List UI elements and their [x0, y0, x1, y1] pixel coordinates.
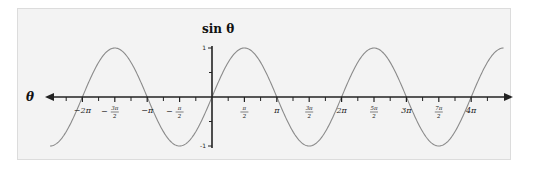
x-tick-label: 7π2	[435, 105, 443, 119]
x-tick-label: π2	[240, 105, 248, 119]
svg-text:π: π	[242, 105, 247, 111]
svg-text:−: −	[101, 107, 108, 116]
svg-text:2: 2	[112, 113, 117, 119]
axes	[45, 46, 513, 148]
y-tick-label: 1	[202, 44, 206, 51]
svg-text:2: 2	[436, 113, 441, 119]
svg-text:2: 2	[371, 113, 376, 119]
x-axis-title: θ	[26, 90, 34, 104]
svg-text:2: 2	[306, 113, 311, 119]
y-axis-title: sin θ	[202, 22, 234, 36]
x-tick-label: 3π2	[305, 105, 313, 119]
x-tick-label: −3π2	[101, 105, 119, 119]
x-tick-label: 4π	[465, 106, 477, 115]
x-tick-label: 2π	[335, 106, 347, 115]
arrow-right-icon	[504, 93, 513, 101]
x-tick-label: 3π	[401, 106, 412, 115]
y-tick-label: -1	[200, 142, 206, 149]
x-tick-label: 5π2	[370, 105, 378, 119]
svg-text:3π: 3π	[306, 105, 313, 111]
sine-chart: 1-1−2π−3π2−π−π2π2π3π22π5π23π7π24π sin θ …	[0, 0, 542, 175]
svg-text:5π: 5π	[370, 105, 377, 111]
x-tick-label: −2π	[74, 106, 92, 115]
x-tick-label: −π2	[166, 105, 184, 119]
x-tick-label: π	[273, 106, 280, 115]
svg-text:2: 2	[177, 113, 182, 119]
svg-text:−: −	[166, 107, 173, 116]
arrow-left-icon	[45, 93, 54, 101]
svg-text:3π: 3π	[111, 105, 118, 111]
svg-text:π: π	[177, 105, 182, 111]
x-tick-label: −π	[141, 106, 154, 115]
svg-text:2: 2	[242, 113, 247, 119]
svg-text:7π: 7π	[435, 105, 442, 111]
